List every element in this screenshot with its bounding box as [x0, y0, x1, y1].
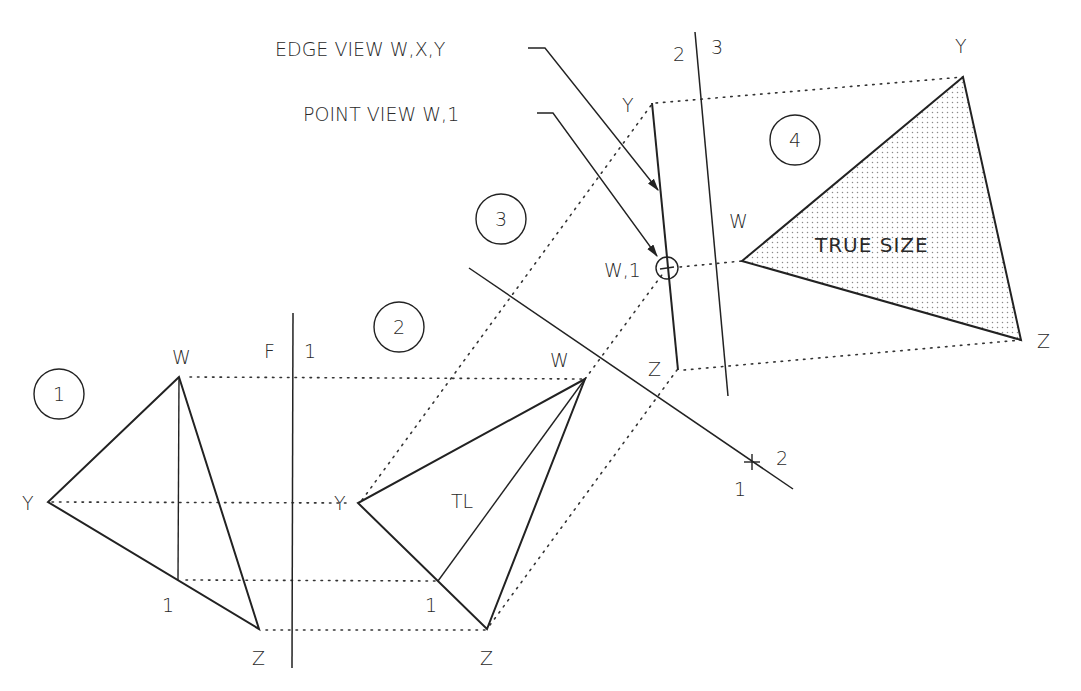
descriptive-geometry-diagram: 1 2 3 4 EDGE VIEW W,X,Y POINT VIEW W,1 F…: [0, 0, 1081, 691]
labels: EDGE VIEW W,X,Y POINT VIEW W,1 F 1 1 2 2…: [22, 35, 1050, 669]
view1-label-y: Y: [22, 492, 34, 514]
view4-label-z: Z: [1037, 330, 1050, 352]
fold-12-right-label: 2: [776, 447, 788, 469]
view1-label-z: Z: [252, 647, 265, 669]
projector-w-1-2: [190, 377, 585, 379]
view-badge-2: 2: [374, 302, 424, 352]
view3-label-z: Z: [648, 358, 661, 380]
view-badge-1: 1: [34, 369, 84, 419]
fold-f1-right-label: 1: [304, 340, 316, 362]
view2-label-1: 1: [425, 594, 437, 616]
fold-23-left-label: 2: [673, 43, 685, 65]
callout-leaders: [528, 48, 658, 256]
projector-z-2-3: [490, 370, 677, 625]
fold-line-2-3: [695, 32, 728, 396]
point-view-tick: [660, 267, 674, 269]
fold-12-left-label: 1: [734, 478, 746, 500]
view-badges: 1 2 3 4: [34, 115, 820, 419]
view-1: [48, 377, 259, 629]
view1-line-w-1: [178, 377, 179, 580]
view1-triangle: [48, 377, 259, 629]
projector-z-3-4: [684, 340, 1021, 370]
projector-y-3-4: [656, 77, 963, 103]
view2-true-length-line: [438, 379, 585, 581]
view-badge-4-label: 4: [789, 129, 801, 151]
view3-label-w1: W,1: [604, 259, 641, 281]
view-badge-3: 3: [476, 194, 526, 244]
view2-label-w: W: [550, 349, 569, 371]
view-badge-3-label: 3: [495, 208, 507, 230]
fold-23-right-label: 3: [711, 36, 723, 58]
projector-w-3-4: [680, 261, 742, 267]
view2-label-y: Y: [334, 492, 346, 514]
view3-edge-view-line: [652, 103, 678, 370]
fold-lines: [292, 32, 793, 668]
edge-view-callout: EDGE VIEW W,X,Y: [275, 38, 446, 60]
view4-label-y: Y: [955, 35, 967, 57]
projector-p1-1-2: [186, 580, 438, 581]
view-4: [742, 77, 1021, 340]
view3-label-y: Y: [622, 94, 634, 116]
point-view-callout: POINT VIEW W,1: [303, 103, 459, 125]
fold-line-1-2: [469, 268, 793, 489]
fold-f1-left-label: F: [264, 340, 275, 362]
projector-y-2-3: [362, 104, 652, 500]
view2-label-z: Z: [480, 647, 493, 669]
view1-label-1: 1: [162, 594, 174, 616]
projector-y-1-2: [52, 502, 350, 503]
view-badge-1-label: 1: [53, 383, 65, 405]
point-view-leader: [537, 113, 657, 256]
view-3: [652, 103, 678, 370]
view-badge-4: 4: [770, 115, 820, 165]
view-badge-2-label: 2: [393, 316, 405, 338]
view1-label-w: W: [172, 346, 191, 368]
fold-line-f-1: [292, 313, 293, 668]
view2-label-tl: TL: [451, 490, 473, 512]
view4-label-w: W: [729, 210, 748, 232]
true-size-label: TRUE SIZE: [814, 233, 929, 257]
